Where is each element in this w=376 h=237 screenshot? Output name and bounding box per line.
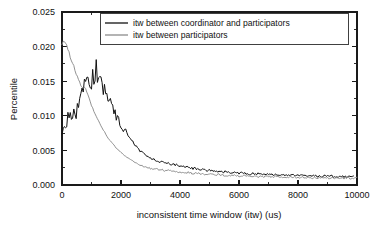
x-tick-label: 10000	[344, 190, 369, 200]
x-tick-label: 0	[59, 190, 64, 200]
chart-figure: 02000400060008000100000.0000.0050.0100.0…	[0, 0, 376, 237]
y-tick-label: 0.015	[32, 77, 55, 87]
legend-label-coordinator: itw between coordinator and participator…	[133, 18, 290, 28]
chart-canvas: 02000400060008000100000.0000.0050.0100.0…	[0, 0, 376, 237]
x-tick-label: 2000	[111, 190, 131, 200]
y-tick-label: 0.025	[32, 7, 55, 17]
x-tick-label: 8000	[288, 190, 308, 200]
x-tick-label: 4000	[170, 190, 190, 200]
y-tick-label: 0.010	[32, 111, 55, 121]
y-tick-label: 0.005	[32, 146, 55, 156]
x-tick-label: 6000	[229, 190, 249, 200]
y-tick-label: 0.000	[32, 180, 55, 190]
y-axis-title: Percentile	[8, 78, 19, 120]
y-tick-label: 0.020	[32, 42, 55, 52]
chart-legend: itw between coordinator and participator…	[100, 13, 348, 44]
x-axis-title: inconsistent time window (itw) (us)	[137, 209, 282, 220]
legend-label-participators: itw between participators	[133, 30, 228, 40]
